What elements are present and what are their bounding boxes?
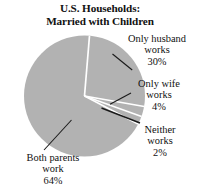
pie-chart-figure: U.S. Households: Married with Children O… <box>0 0 200 188</box>
pie-label-both-line-1: Both parents <box>27 152 80 163</box>
pie-label-both-line-2: work <box>0 163 106 174</box>
pie-label-wife-line-1: Only wife <box>138 78 180 89</box>
pie-label-neither-percent: 2% <box>126 147 194 158</box>
pie-label-both-percent: 64% <box>0 175 106 186</box>
pie-label-wife-line-2: works <box>124 89 194 100</box>
pie-label-husband-percent: 30% <box>119 56 195 67</box>
pie-label-neither-line-1: Neither <box>144 124 175 135</box>
pie-label-neither-line-2: works <box>126 135 194 146</box>
pie-label-both-parents-work: Both parents work 64% <box>0 152 106 186</box>
pie-label-husband-line-2: works <box>119 44 195 55</box>
pie-label-husband-line-1: Only husband <box>128 33 186 44</box>
pie-label-wife-percent: 4% <box>124 101 194 112</box>
pie-label-only-wife-works: Only wife works 4% <box>124 78 194 112</box>
pie-label-only-husband-works: Only husband works 30% <box>119 33 195 67</box>
pie-label-neither-works: Neither works 2% <box>126 124 194 158</box>
